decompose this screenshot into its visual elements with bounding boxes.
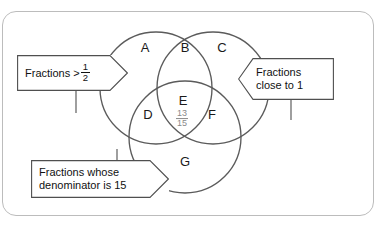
callout-fractions-greater-than-half: Fractions > 1 2 [17, 55, 128, 91]
callout-left-text: Fractions > 1 2 [25, 55, 91, 91]
region-label-c: C [217, 41, 226, 54]
venn-diagram-page: A B C D E F G 13 15 Fractions > 1 2 Frac… [0, 0, 380, 230]
callout-bottom-text: Fractions whose denominator is 15 [39, 160, 126, 198]
callout-right-line-2: close to 1 [256, 79, 303, 92]
callout-bottom-line-2: denominator is 15 [39, 179, 126, 192]
callout-right-text: Fractions close to 1 [256, 58, 303, 100]
callout-left-label: Fractions > [25, 67, 80, 80]
region-label-d: D [143, 108, 152, 121]
region-label-f: F [208, 108, 216, 121]
region-label-e: E [179, 94, 188, 107]
center-fraction-denominator: 15 [176, 120, 188, 129]
region-label-b: B [181, 41, 190, 54]
center-fraction-value: 13 15 [176, 109, 188, 129]
callout-right-line-1: Fractions [256, 66, 303, 79]
callout-fractions-denominator-15: Fractions whose denominator is 15 [31, 160, 169, 198]
callout-bottom-line-1: Fractions whose [39, 166, 126, 179]
callout-left-fraction: 1 2 [81, 62, 90, 83]
region-label-g: G [180, 155, 190, 168]
callout-left-fraction-denominator: 2 [81, 73, 90, 83]
callout-fractions-close-to-one: Fractions close to 1 [238, 58, 334, 100]
region-label-a: A [141, 41, 150, 54]
